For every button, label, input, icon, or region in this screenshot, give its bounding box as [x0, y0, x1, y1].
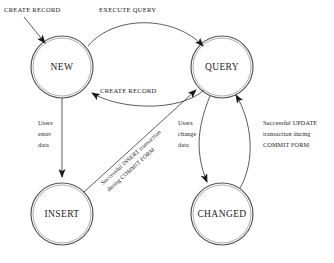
node-insert[interactable]: INSERT: [31, 183, 93, 245]
node-changed-label: CHANGED: [197, 209, 246, 219]
edge-label-entry-create-record: CREATE RECORD: [4, 6, 61, 13]
edge-label-changed-to-query: Successful UPDATE transaction during COM…: [263, 119, 317, 148]
edge-label-query-to-changed: Users change data: [178, 119, 197, 148]
edge-label-insert-to-query: Successful INSERT transaction during COM…: [100, 129, 168, 193]
state-diagram-canvas: NEW QUERY INSERT CHANGED: [0, 0, 334, 263]
node-query-label: QUERY: [205, 62, 239, 72]
svg-text:data: data: [178, 141, 189, 148]
edge-label-new-to-query: EXECUTE QUERY: [99, 6, 156, 13]
svg-text:COMMIT FORM: COMMIT FORM: [263, 141, 309, 148]
svg-text:enter: enter: [38, 130, 51, 137]
svg-text:data: data: [38, 141, 49, 148]
svg-text:Successful INSERT transaction: Successful INSERT transaction: [100, 129, 162, 186]
node-changed[interactable]: CHANGED: [191, 183, 253, 245]
edge-entry-create-record: [24, 17, 45, 43]
state-diagram-svg: NEW QUERY INSERT CHANGED: [0, 0, 334, 263]
edge-new-to-query: [88, 23, 203, 46]
node-new[interactable]: NEW: [31, 36, 93, 98]
edge-query-to-changed: [199, 96, 210, 182]
node-query[interactable]: QUERY: [191, 36, 253, 98]
svg-text:Successful UPDATE: Successful UPDATE: [263, 119, 317, 126]
node-insert-label: INSERT: [44, 209, 79, 219]
edge-label-new-to-insert: Users enter data: [38, 119, 53, 148]
edge-label-query-to-new: CREATE RECORD: [100, 87, 157, 94]
svg-text:transaction during: transaction during: [263, 130, 311, 137]
svg-text:change: change: [178, 130, 197, 137]
edge-changed-to-query: [236, 95, 250, 188]
svg-text:Users: Users: [178, 119, 193, 126]
svg-text:Users: Users: [38, 119, 53, 126]
node-new-label: NEW: [51, 62, 74, 72]
